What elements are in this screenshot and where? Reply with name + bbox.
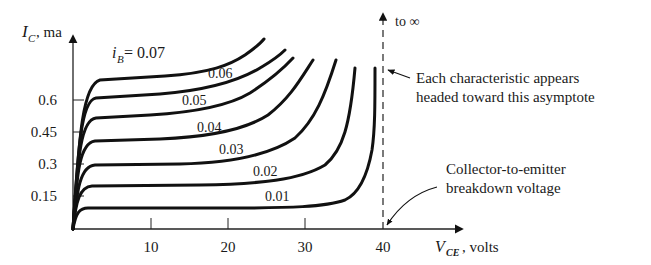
x-tick-labels: 10 20 30 40 (144, 239, 391, 255)
svg-text:CE: CE (446, 247, 460, 258)
svg-text:C: C (28, 32, 36, 44)
ib-label-sub: B (117, 53, 124, 65)
x-tick-label: 20 (221, 239, 236, 255)
y-tick-label: 0.3 (38, 156, 57, 172)
x-tick-label: 10 (144, 239, 159, 255)
breakdown-pointer-arrow (387, 187, 437, 225)
to-infinity-label: to ∞ (395, 14, 419, 29)
curve-label-0.06: 0.06 (208, 66, 233, 81)
asymptote-annotation-line1: Each characteristic appears (416, 70, 579, 86)
curve-ib-0.07 (73, 39, 264, 229)
asymptote-pointer-arrow (388, 70, 410, 78)
breakdown-annotation-line2: breakdown voltage (446, 180, 561, 196)
y-tick-label: 0.6 (38, 92, 57, 108)
curve-label-0.03: 0.03 (219, 142, 244, 157)
y-tick-label: 0.15 (31, 188, 57, 204)
x-axis-title: V CE , volts (435, 238, 499, 258)
curve-label-0.02: 0.02 (253, 164, 278, 179)
ib-label-main: i (112, 44, 116, 61)
curve-label-0.01: 0.01 (265, 189, 290, 204)
svg-text:, ma: , ma (36, 24, 62, 40)
curve-ib-0.05 (73, 58, 293, 229)
transistor-characteristics-chart: 0.6 0.45 0.3 0.15 10 20 30 40 I C , ma V… (0, 0, 651, 265)
asymptote-annotation-line2: headed toward this asymptote (416, 89, 595, 105)
svg-text:, volts: , volts (462, 239, 499, 255)
curve-label-0.05: 0.05 (182, 93, 207, 108)
curve-label-0.04: 0.04 (197, 120, 222, 135)
y-axis-title: I C , ma (21, 22, 62, 44)
x-tick-label: 30 (298, 239, 313, 255)
x-tick-label: 40 (376, 239, 391, 255)
breakdown-annotation-line1: Collector-to-emitter (446, 161, 566, 177)
y-tick-labels: 0.6 0.45 0.3 0.15 (31, 92, 58, 204)
ib-label-value: = 0.07 (124, 44, 165, 61)
y-tick-label: 0.45 (31, 124, 57, 140)
